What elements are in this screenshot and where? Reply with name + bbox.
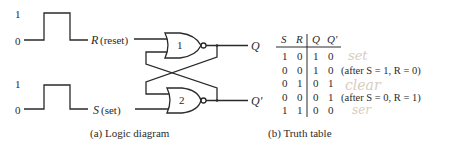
table-cell: 0 xyxy=(282,91,288,103)
table-cell: 0 xyxy=(282,77,288,89)
table-header-r: R xyxy=(295,33,303,45)
reset-high-label: 1 xyxy=(15,8,21,20)
reset-signal-label: R xyxy=(90,33,99,47)
gate-1-label: 1 xyxy=(177,39,183,51)
feedback-wires xyxy=(146,46,217,101)
table-cell: 0 xyxy=(313,77,319,89)
truth-table-caption: (b) Truth table xyxy=(268,127,332,140)
reset-low-label: 0 xyxy=(15,35,21,47)
table-cell: 0 xyxy=(282,64,288,76)
q-prime-output-label: Q′ xyxy=(251,94,263,108)
table-row-note: (after S = 0, R = 1) xyxy=(341,92,421,104)
gate-1-inverter-bubble xyxy=(201,43,206,48)
table-header-s: S xyxy=(281,33,287,45)
handwritten-note-set: set xyxy=(348,48,368,63)
table-header-q-prime: Q′ xyxy=(327,33,338,45)
table-cell: 0 xyxy=(313,91,319,103)
table-cell: 1 xyxy=(297,104,303,116)
table-cell: 1 xyxy=(328,91,334,103)
table-cell: 0 xyxy=(328,50,334,62)
table-cell: 1 xyxy=(282,50,288,62)
q-output-label: Q xyxy=(251,39,260,53)
table-cell: 0 xyxy=(297,50,303,62)
reset-pulse-waveform xyxy=(24,13,88,40)
junction-dot-q xyxy=(216,44,219,47)
truth-table: S R Q Q′ 10100010(after S = 1, R = 0)010… xyxy=(276,33,421,117)
set-high-label: 1 xyxy=(15,78,21,90)
gate-2-label: 2 xyxy=(179,94,185,106)
set-low-label: 0 xyxy=(15,104,21,116)
table-cell: 0 xyxy=(328,104,334,116)
table-cell: 1 xyxy=(297,77,303,89)
table-cell: 0 xyxy=(313,104,319,116)
set-pulse-waveform xyxy=(24,85,88,109)
sr-latch-figure: 1 0 1 0 R (reset) S (set) 1 2 Q Q′ (a) L… xyxy=(0,0,451,150)
table-cell: 1 xyxy=(282,104,288,116)
reset-signal-note: (reset) xyxy=(100,34,128,47)
table-cell: 0 xyxy=(297,64,303,76)
set-signal-label: S xyxy=(93,103,99,117)
table-header-q: Q xyxy=(312,33,320,45)
set-signal-note: (set) xyxy=(101,104,121,117)
table-cell: 1 xyxy=(313,64,319,76)
nor-gate-1 xyxy=(165,33,201,58)
table-cell: 0 xyxy=(297,91,303,103)
table-row-note: (after S = 1, R = 0) xyxy=(341,65,421,77)
gate-2-inverter-bubble xyxy=(201,98,206,103)
junction-dot-q-prime xyxy=(216,99,219,102)
handwritten-note-clear: clear xyxy=(345,77,382,93)
logic-diagram-caption: (a) Logic diagram xyxy=(90,127,170,140)
handwritten-note-ser: ser xyxy=(352,103,372,117)
table-cell: 0 xyxy=(328,64,334,76)
table-cell: 1 xyxy=(313,50,319,62)
table-cell: 1 xyxy=(328,77,334,89)
